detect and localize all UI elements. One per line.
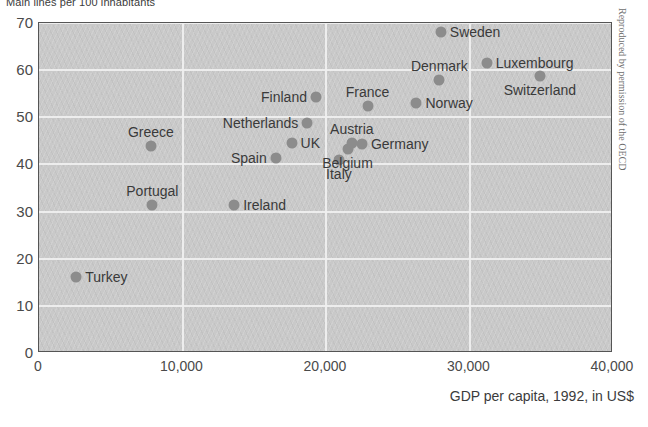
y-tick-label: 70 bbox=[3, 15, 33, 30]
data-label-uk: UK bbox=[301, 136, 320, 150]
gridline-vertical bbox=[469, 23, 471, 351]
x-tick-label: 40,000 bbox=[591, 358, 634, 374]
data-label-turkey: Turkey bbox=[85, 270, 127, 284]
credit-note: Reproduced by permission of the OECD bbox=[617, 8, 628, 170]
data-label-netherlands: Netherlands bbox=[223, 116, 299, 130]
y-tick-label: 50 bbox=[3, 109, 33, 124]
data-point-greece[interactable] bbox=[145, 140, 156, 151]
data-point-finland[interactable] bbox=[310, 92, 321, 103]
data-point-switzerland[interactable] bbox=[534, 70, 545, 81]
data-label-austria: Austria bbox=[330, 122, 374, 136]
data-point-ireland[interactable] bbox=[229, 199, 240, 210]
data-point-uk[interactable] bbox=[286, 138, 297, 149]
data-label-finland: Finland bbox=[261, 90, 307, 104]
gridline-vertical bbox=[325, 23, 327, 351]
data-point-sweden[interactable] bbox=[435, 27, 446, 38]
data-point-luxembourg[interactable] bbox=[481, 58, 492, 69]
data-point-netherlands[interactable] bbox=[302, 117, 313, 128]
y-axis-ticks: 010203040506070 bbox=[0, 0, 33, 427]
data-label-norway: Norway bbox=[425, 96, 472, 110]
data-label-spain: Spain bbox=[231, 151, 267, 165]
data-point-norway[interactable] bbox=[411, 98, 422, 109]
data-point-turkey[interactable] bbox=[71, 271, 82, 282]
data-point-spain[interactable] bbox=[270, 153, 281, 164]
data-label-denmark: Denmark bbox=[411, 59, 468, 73]
x-tick-label: 20,000 bbox=[304, 358, 347, 374]
y-tick-label: 60 bbox=[3, 62, 33, 77]
data-point-germany[interactable] bbox=[356, 139, 367, 150]
y-tick-label: 20 bbox=[3, 251, 33, 266]
data-point-denmark[interactable] bbox=[434, 74, 445, 85]
data-label-belgium: Belgium bbox=[322, 156, 373, 170]
x-tick-label: 0 bbox=[34, 358, 42, 374]
x-tick-label: 30,000 bbox=[447, 358, 490, 374]
chart-figure: Main lines per 100 inhabitants TurkeyPor… bbox=[0, 0, 648, 427]
data-label-germany: Germany bbox=[371, 137, 429, 151]
data-point-france[interactable] bbox=[362, 100, 373, 111]
data-label-france: France bbox=[346, 85, 390, 99]
data-label-greece: Greece bbox=[128, 125, 174, 139]
data-label-sweden: Sweden bbox=[450, 25, 501, 39]
plot-area: TurkeyPortugalGreeceIrelandSpainUKNether… bbox=[38, 22, 612, 352]
y-tick-label: 0 bbox=[3, 345, 33, 360]
data-label-ireland: Ireland bbox=[243, 198, 286, 212]
data-label-portugal: Portugal bbox=[126, 184, 178, 198]
gridline-vertical bbox=[182, 23, 184, 351]
data-point-portugal[interactable] bbox=[147, 199, 158, 210]
y-tick-label: 10 bbox=[3, 298, 33, 313]
x-axis-label: GDP per capita, 1992, in US$ bbox=[450, 388, 634, 404]
data-label-switzerland: Switzerland bbox=[504, 83, 576, 97]
x-tick-label: 10,000 bbox=[160, 358, 203, 374]
data-label-luxembourg: Luxembourg bbox=[496, 56, 574, 70]
y-tick-label: 30 bbox=[3, 204, 33, 219]
y-tick-label: 40 bbox=[3, 156, 33, 171]
